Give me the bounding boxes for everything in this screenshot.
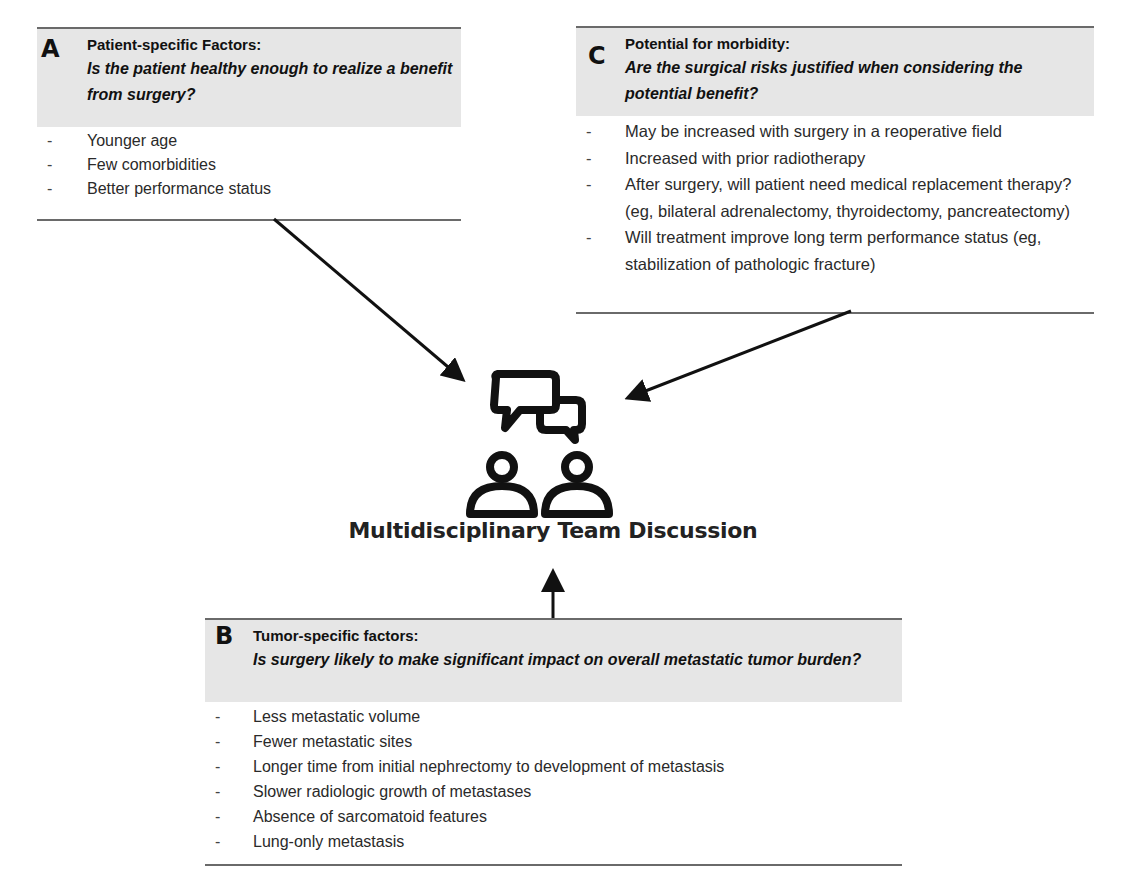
team-discussion-icon	[470, 374, 609, 514]
team-discussion-label: Multidisciplinary Team Discussion	[333, 518, 773, 543]
arrow-c-to-center	[630, 311, 851, 397]
diagram-arrows	[0, 0, 1127, 877]
arrow-a-to-center	[274, 219, 461, 378]
